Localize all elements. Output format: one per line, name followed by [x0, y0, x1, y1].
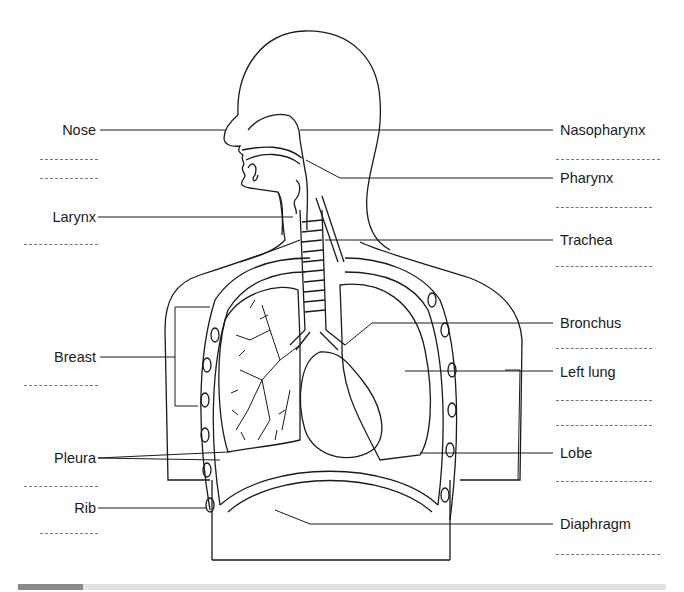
nasal-cavity — [248, 114, 308, 230]
label-bronchus: Bronchus — [560, 315, 621, 331]
right-lung — [219, 287, 300, 452]
blank-answer-line — [40, 178, 98, 179]
esophagus — [316, 196, 344, 262]
blank-answer-line — [556, 207, 652, 208]
neck-front — [240, 192, 285, 262]
leader-lines-right — [275, 130, 553, 524]
diaphragm — [220, 471, 438, 512]
respiratory-diagram — [0, 0, 684, 592]
ribcage-inner — [213, 272, 443, 505]
blank-answer-line — [24, 486, 98, 487]
blank-answer-line — [556, 159, 660, 160]
blank-answer-line — [556, 348, 652, 349]
trachea — [300, 210, 326, 330]
label-rib: Rib — [74, 500, 96, 516]
label-left-lung: Left lung — [560, 364, 616, 380]
label-breast: Breast — [54, 349, 96, 365]
label-pharynx: Pharynx — [560, 170, 613, 186]
label-diaphragm: Diaphragm — [560, 516, 631, 532]
blank-answer-line — [24, 385, 98, 386]
bronchioles — [231, 300, 300, 440]
torso-bottom — [212, 480, 450, 560]
tongue — [248, 164, 258, 181]
left-lung — [340, 284, 430, 460]
bottom-rule — [18, 584, 666, 590]
blank-answer-line — [556, 425, 652, 426]
epiglottis — [294, 180, 300, 214]
blank-answer-line — [556, 481, 652, 482]
blank-answer-line — [556, 400, 652, 401]
heart — [300, 352, 381, 458]
label-nose: Nose — [62, 122, 96, 138]
leader-lines-left — [98, 130, 293, 508]
bronchi — [290, 330, 345, 350]
palate — [242, 147, 302, 164]
label-trachea: Trachea — [560, 232, 613, 248]
blank-answer-line — [24, 244, 98, 245]
blank-answer-line — [40, 533, 98, 534]
blank-answer-line — [556, 554, 660, 555]
bottom-rule-accent — [18, 584, 83, 590]
label-lobe: Lobe — [560, 445, 592, 461]
blank-answer-line — [556, 266, 652, 267]
label-nasopharynx: Nasopharynx — [560, 122, 645, 138]
blank-answer-line — [40, 159, 98, 160]
label-larynx: Larynx — [52, 209, 96, 225]
label-pleura: Pleura — [54, 450, 96, 466]
